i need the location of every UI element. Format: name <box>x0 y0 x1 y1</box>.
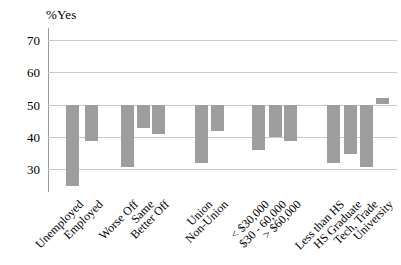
bar-unemployed <box>66 105 79 186</box>
bar-same <box>137 105 150 128</box>
gridline-30 <box>48 169 397 170</box>
bar-chart: %Yes 3040506070UnemployedEmployedWorse O… <box>0 0 401 265</box>
y-axis-title: %Yes <box>46 7 77 23</box>
y-tick-label-50: 50 <box>0 98 40 113</box>
bar-university <box>376 98 389 104</box>
bar-30-60-000 <box>269 105 282 137</box>
bar-30-000 <box>252 105 265 150</box>
bar-union <box>195 105 208 163</box>
bar-tech-trade <box>360 105 373 167</box>
y-tick-label-40: 40 <box>0 130 40 145</box>
y-tick-label-30: 30 <box>0 162 40 177</box>
y-tick-label-70: 70 <box>0 33 40 48</box>
bar-better-off <box>152 105 165 134</box>
y-axis-line <box>48 28 49 192</box>
y-tick-label-60: 60 <box>0 65 40 80</box>
bar-worse-off <box>121 105 134 167</box>
bar-employed <box>85 105 98 141</box>
bar-hs-graduate <box>344 105 357 154</box>
gridline-70 <box>48 40 397 41</box>
bar-non-union <box>211 105 224 131</box>
gridline-60 <box>48 72 397 73</box>
bar-60-000 <box>284 105 297 141</box>
bar-less-than-hs <box>327 105 340 163</box>
